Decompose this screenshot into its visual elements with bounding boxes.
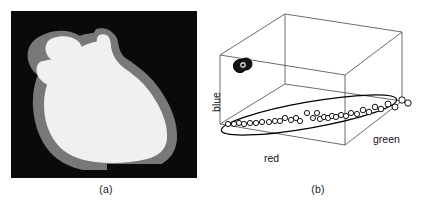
segmented-image-svg [11, 11, 197, 178]
scatter-point [405, 100, 411, 106]
scatter-point [360, 107, 366, 113]
scatter-point [266, 119, 271, 124]
scatter-point [259, 119, 264, 124]
scatter-point [272, 118, 277, 123]
scatter-point [297, 118, 302, 123]
scatter-point [304, 110, 309, 115]
scatter-point [241, 121, 246, 126]
scatter-point [392, 104, 398, 110]
scatter-point [378, 106, 384, 112]
bottom-strip [11, 170, 197, 178]
scatter-points-dark-cluster [233, 58, 252, 73]
scatter-point [282, 115, 287, 120]
scatter-point [338, 112, 343, 117]
segmented-image [11, 11, 197, 178]
cube-edge-base-back-right [285, 84, 402, 101]
scatter-point [231, 121, 236, 126]
panel-a-caption: (a) [0, 183, 212, 195]
scatter3d-svg [212, 0, 424, 180]
scatter-point [343, 113, 348, 118]
panel-a: (a) [0, 0, 212, 213]
axis-label-red: red [264, 152, 279, 164]
scatter-point [354, 111, 359, 116]
scatter-points-main [225, 97, 411, 127]
scatter-point [399, 97, 405, 103]
rgb-cube-wireframe [220, 14, 402, 145]
scatter-point [225, 121, 230, 126]
figure-container: (a) [0, 0, 424, 213]
scatter-point [366, 109, 372, 115]
scatter-point [253, 120, 258, 125]
scatter-point [247, 120, 252, 125]
panel-b-caption: (b) [212, 183, 424, 195]
panel-b: blue red green (b) [212, 0, 424, 213]
scatter-point [372, 104, 378, 110]
scatter-point [348, 110, 353, 115]
scatter-point [236, 120, 241, 125]
axis-label-blue: blue [210, 92, 222, 112]
dark-cluster-core [241, 63, 244, 66]
scatter-point [288, 117, 293, 122]
cube-edge-back-top-left [220, 14, 285, 55]
scatter-point [385, 101, 391, 107]
cube-edge-front-top-right [345, 32, 402, 75]
scatter-point [333, 114, 338, 119]
scatter-point [277, 118, 282, 123]
scatter-point [310, 115, 315, 120]
region-neck-core [97, 34, 111, 58]
scatter-point [314, 110, 319, 115]
bottom-bar [107, 164, 163, 170]
axis-label-green: green [373, 133, 400, 145]
cube-edge-back-top-right [285, 14, 402, 32]
